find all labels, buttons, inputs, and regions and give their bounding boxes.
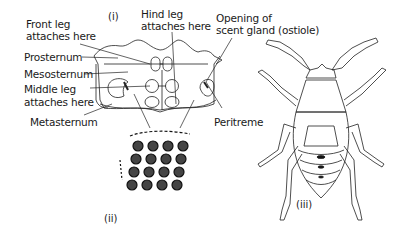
label-ostiole-line1: Opening of [216, 12, 272, 24]
label-middle-leg-line1: Middle leg [24, 83, 76, 95]
leader-lines [80, 32, 232, 128]
label-ostiole-line2: scent gland (ostiole) [216, 24, 319, 36]
label-peritreme: Peritreme [214, 116, 263, 128]
label-mesosternum: Mesosternum [24, 68, 93, 80]
label-front-leg-line2: attaches here [26, 30, 96, 42]
panel-label-iii: (iii) [296, 199, 312, 211]
label-front-leg-line1: Front leg [26, 18, 70, 30]
label-middle-leg-line2: attaches here [24, 96, 94, 108]
panel-label-ii: (ii) [104, 213, 117, 225]
label-prosternum: Prosternum [24, 51, 82, 63]
panel-label-i: (i) [108, 11, 119, 23]
peritreme-texture [120, 131, 190, 190]
label-hind-leg-line1: Hind leg [141, 8, 183, 20]
insect-drawing [258, 38, 386, 220]
label-hind-leg-line2: attaches here [141, 20, 211, 32]
thorax-diagram [94, 40, 222, 112]
label-metasternum: Metasternum [30, 116, 98, 128]
